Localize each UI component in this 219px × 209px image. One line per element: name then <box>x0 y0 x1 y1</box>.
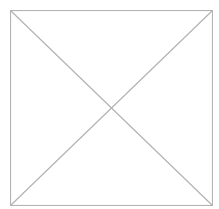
image-placeholder <box>10 10 213 206</box>
placeholder-x-icon <box>10 10 213 206</box>
